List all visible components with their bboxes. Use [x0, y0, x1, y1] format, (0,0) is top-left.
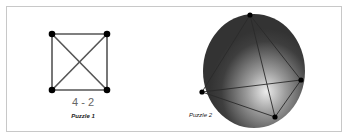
puzzle1-label: 4 - 2	[58, 96, 108, 108]
vertex-dot	[298, 77, 303, 82]
vertex-dot	[104, 31, 111, 38]
vertex-dot	[247, 12, 252, 17]
puzzle2-sphere	[199, 12, 305, 128]
vertex-dot	[199, 89, 204, 94]
puzzles-figure	[0, 0, 347, 137]
puzzle2-caption: Puzzle 2	[189, 112, 212, 118]
vertex-dot	[49, 31, 56, 38]
puzzle1-caption: Puzzle 1	[58, 113, 108, 119]
vertex-dot	[272, 114, 277, 119]
vertex-dot	[49, 87, 56, 94]
puzzle1-graph	[49, 31, 111, 94]
vertex-dot	[104, 87, 111, 94]
